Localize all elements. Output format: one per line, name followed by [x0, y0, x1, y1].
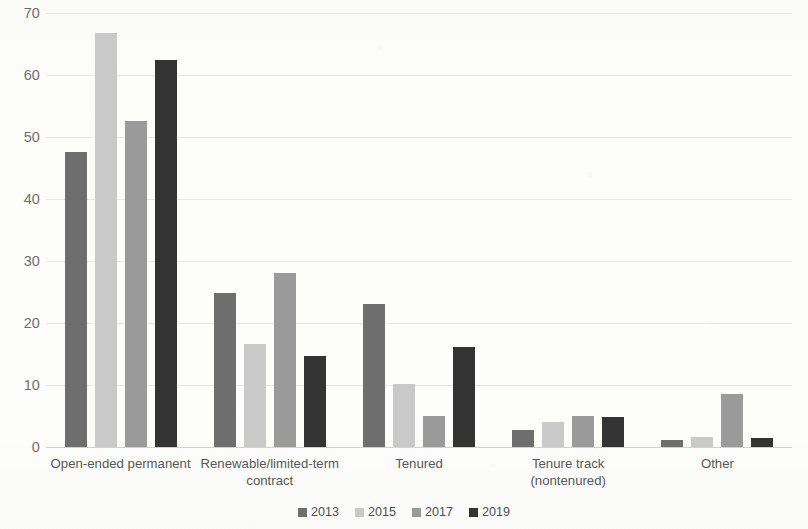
bar-group [46, 13, 195, 447]
legend-label: 2017 [425, 505, 453, 519]
bar-2015 [244, 344, 266, 447]
x-tick-label: Other [643, 455, 792, 472]
bar-group [494, 13, 643, 447]
bar-group [195, 13, 344, 447]
y-tick-label: 10 [4, 377, 40, 393]
legend-swatch-icon [469, 508, 478, 517]
legend-label: 2019 [482, 505, 510, 519]
bar-chart: 706050403020100 Open-ended permanentRene… [0, 0, 808, 529]
bar-2017 [274, 273, 296, 447]
bar-2017 [423, 416, 445, 447]
bar-2017 [125, 121, 147, 447]
x-tick-label: Renewable/limited-term contract [195, 455, 344, 489]
legend-item-2013[interactable]: 2013 [298, 505, 339, 519]
x-tick-label: Open-ended permanent [46, 455, 195, 472]
bar-2013 [512, 430, 534, 447]
legend-label: 2013 [311, 505, 339, 519]
bar-2015 [542, 422, 564, 447]
bar-2013 [65, 152, 87, 447]
legend-swatch-icon [298, 508, 307, 517]
bar-2019 [304, 356, 326, 447]
y-tick-label: 70 [4, 5, 40, 21]
bar-2015 [95, 33, 117, 447]
x-tick-label: Tenured [344, 455, 493, 472]
plot-area [46, 13, 792, 447]
legend: 2013201520172019 [0, 505, 808, 519]
bar-2013 [214, 293, 236, 447]
bar-2013 [661, 440, 683, 447]
y-tick-label: 30 [4, 253, 40, 269]
y-axis: 706050403020100 [0, 13, 40, 447]
bar-group [643, 13, 792, 447]
y-tick-label: 50 [4, 129, 40, 145]
bar-2019 [751, 438, 773, 447]
bar-2013 [363, 304, 385, 447]
bar-2015 [393, 384, 415, 447]
x-tick-label: Tenure track (nontenured) [494, 455, 643, 489]
legend-swatch-icon [412, 508, 421, 517]
legend-label: 2015 [368, 505, 396, 519]
bar-2019 [453, 347, 475, 447]
bar-2019 [602, 417, 624, 447]
bar-2019 [155, 60, 177, 447]
bar-2015 [691, 437, 713, 447]
y-tick-label: 40 [4, 191, 40, 207]
bar-2017 [721, 394, 743, 447]
legend-swatch-icon [355, 508, 364, 517]
y-tick-label: 20 [4, 315, 40, 331]
y-tick-label: 0 [4, 439, 40, 455]
bar-2017 [572, 416, 594, 447]
legend-item-2017[interactable]: 2017 [412, 505, 453, 519]
bar-group [344, 13, 493, 447]
legend-item-2015[interactable]: 2015 [355, 505, 396, 519]
legend-item-2019[interactable]: 2019 [469, 505, 510, 519]
axis-line-zero [46, 447, 792, 448]
y-tick-label: 60 [4, 67, 40, 83]
